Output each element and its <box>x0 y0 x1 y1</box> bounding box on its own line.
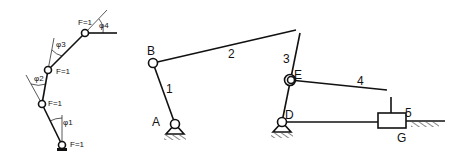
angle-label-phi4: φ4 <box>99 21 109 30</box>
link-label-4: 4 <box>357 74 364 88</box>
phi2-arc <box>31 84 46 85</box>
joint-label-a: A <box>152 115 160 129</box>
angle-label-phi1: φ1 <box>63 118 73 127</box>
joint-label-g: G <box>397 131 406 145</box>
angle-label-phi3: φ3 <box>56 40 66 49</box>
kinematic-diagram: F=1 F=1 F=1 F=1 φ1 φ2 φ3 φ4 <box>0 0 467 158</box>
chain-joint-4 <box>82 30 89 37</box>
joint-label-b: B <box>147 44 155 58</box>
joint-label-d: D <box>285 108 294 122</box>
dof-label-joint-2: F=1 <box>48 99 63 108</box>
phi3-arc <box>52 50 62 56</box>
slider-g <box>378 113 406 128</box>
angle-label-phi2: φ2 <box>34 74 44 83</box>
chain-base-support <box>57 142 67 152</box>
link-4 <box>290 80 387 90</box>
joint-label-e: E <box>294 68 302 82</box>
link-label-5: 5 <box>405 106 412 120</box>
dof-label-joint-3: F=1 <box>56 67 71 76</box>
joint-b <box>149 59 158 68</box>
dof-label-joint-4: F=1 <box>78 18 93 27</box>
link-label-1: 1 <box>166 82 173 96</box>
phi1-arc <box>50 118 62 121</box>
link-label-3: 3 <box>283 52 290 66</box>
linkage-mechanism <box>149 30 446 140</box>
link-label-2: 2 <box>228 47 235 61</box>
link-2 <box>153 30 296 63</box>
chain-joint-2 <box>39 101 46 108</box>
ground-support-a <box>164 120 186 141</box>
chain-joint-3 <box>45 67 52 74</box>
chain-link-1 <box>42 104 62 145</box>
dof-label-base: F=1 <box>70 140 85 149</box>
slider-ground-hatch <box>411 122 439 127</box>
